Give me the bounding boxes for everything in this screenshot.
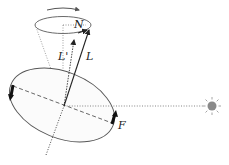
label-angular-momentum: L bbox=[85, 50, 93, 63]
label-force: F bbox=[117, 119, 126, 132]
label-north: N bbox=[73, 18, 84, 31]
precession-diagram: N L L' F bbox=[0, 0, 229, 165]
label-angular-momentum-new: L' bbox=[57, 50, 68, 63]
sun-icon bbox=[203, 97, 221, 115]
precession-arrow-icon bbox=[47, 8, 79, 10]
